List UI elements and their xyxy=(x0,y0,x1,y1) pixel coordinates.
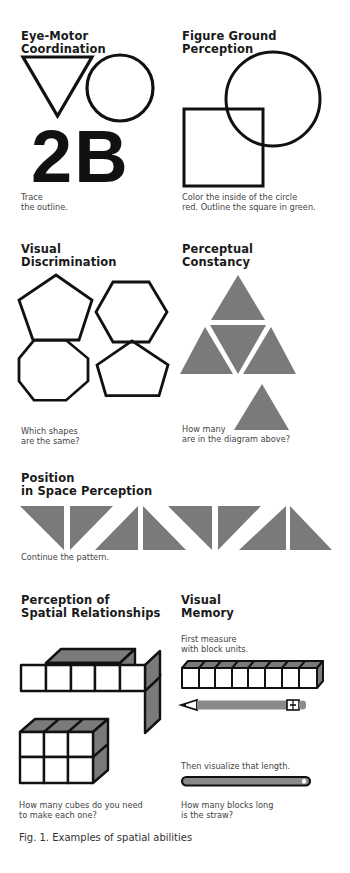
perceptual-constancy-caption-line2: are in the diagram above? xyxy=(182,434,290,444)
pentagon-icon xyxy=(97,341,168,396)
visual-discrimination-caption-line2: are the same? xyxy=(21,436,80,446)
spatial-relationships-caption-line1: How many cubes do you need xyxy=(19,800,143,810)
perceptual-constancy-title-line2: Constancy xyxy=(182,256,253,269)
visual-discrimination-shapes xyxy=(0,270,175,400)
figure-ground-caption-line1: Color the inside of the circle xyxy=(182,192,316,202)
circle-outline-icon xyxy=(226,52,320,146)
block-unit-row-icon xyxy=(175,658,350,690)
triangle-pattern-row xyxy=(0,505,350,550)
octagon-icon xyxy=(19,340,88,400)
eye-motor-caption: Trace the outline. xyxy=(21,192,68,212)
visual-memory-title: Visual Memory xyxy=(181,594,234,620)
eye-motor-caption-line2: the outline. xyxy=(21,202,68,212)
figure-ground-caption: Color the inside of the circle red. Outl… xyxy=(182,192,316,212)
visual-memory-title-line2: Memory xyxy=(181,607,234,620)
visual-memory-step2: Then visualize that length. xyxy=(181,761,290,771)
stepped-cube-stack-front xyxy=(0,620,175,715)
visual-discrimination-caption-line1: Which shapes xyxy=(21,426,80,436)
visual-memory-caption-line1: How many blocks long xyxy=(181,800,273,810)
visual-discrimination-title-line2: Discrimination xyxy=(21,256,117,269)
visual-discrimination-caption: Which shapes are the same? xyxy=(21,426,80,446)
pattern-triangle-8 xyxy=(290,506,332,550)
straw-icon xyxy=(175,775,315,789)
spatial-relationships-title: Perception of Spatial Relationships xyxy=(21,594,160,620)
pattern-triangle-1 xyxy=(20,506,64,550)
spatial-relationships-caption-line2: to make each one? xyxy=(19,810,143,820)
visual-discrimination-title: Visual Discrimination xyxy=(21,243,117,269)
position-in-space-title: Position in Space Perception xyxy=(21,472,152,498)
visual-memory-step1-line1: First measure xyxy=(181,634,248,644)
figure-ground-shapes xyxy=(175,40,350,200)
pentagon-icon xyxy=(19,275,92,340)
hexagon-icon xyxy=(96,282,167,342)
visual-memory-step1: First measure with block units. xyxy=(181,634,248,654)
perceptual-constancy-caption: How many are in the diagram above? xyxy=(182,424,290,444)
triangle-icon xyxy=(211,275,265,320)
square-outline-icon xyxy=(184,109,263,186)
perceptual-constancy-shapes xyxy=(175,270,350,435)
position-in-space-caption: Continue the pattern. xyxy=(21,552,109,562)
figure-ground-caption-line2: red. Outline the square in green. xyxy=(182,202,316,212)
perceptual-constancy-caption-line1: How many xyxy=(182,424,290,434)
spatial-relationships-title-line2: Spatial Relationships xyxy=(21,607,160,620)
cube-block-3x2x2-icon xyxy=(0,715,175,790)
circle-outline-icon xyxy=(84,52,156,124)
eye-motor-caption-line1: Trace xyxy=(21,192,68,202)
visual-memory-step1-line2: with block units. xyxy=(181,644,248,654)
visual-memory-caption: How many blocks long is the straw? xyxy=(181,800,273,820)
traceable-glyph-2b: 2B xyxy=(31,120,130,194)
pencil-icon xyxy=(175,697,315,713)
figure-caption: Fig. 1. Examples of spatial abilities xyxy=(19,832,192,843)
visual-memory-caption-line2: is the straw? xyxy=(181,810,273,820)
spatial-relationships-caption: How many cubes do you need to make each … xyxy=(19,800,143,820)
position-in-space-title-line2: in Space Perception xyxy=(21,485,152,498)
perceptual-constancy-title: Perceptual Constancy xyxy=(182,243,253,269)
